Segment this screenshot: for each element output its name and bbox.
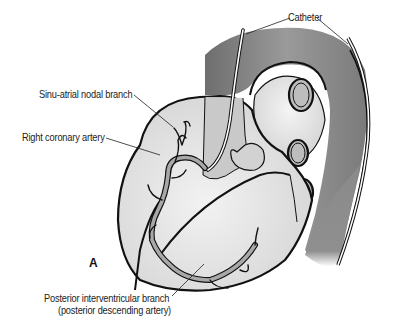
heart-diagram: Catheter Sinu-atrial nodal branch Right … (0, 0, 397, 328)
label-sinu-atrial-nodal-branch: Sinu-atrial nodal branch (39, 88, 132, 100)
label-posterior-interventricular-line1: Posterior interventricular branch (44, 292, 169, 304)
label-right-coronary-artery: Right coronary artery (22, 131, 105, 143)
label-catheter: Catheter (288, 11, 322, 23)
panel-letter: A (89, 256, 98, 270)
heart-illustration (0, 0, 397, 328)
label-posterior-interventricular-line2: (posterior descending artery) (58, 304, 171, 316)
